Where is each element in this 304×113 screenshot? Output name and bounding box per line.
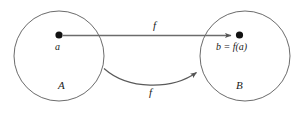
set-b-label: B bbox=[236, 80, 243, 91]
set-b-circle bbox=[200, 11, 290, 101]
set-a-label: A bbox=[58, 80, 65, 91]
point-b-dot bbox=[236, 31, 243, 38]
point-a-dot bbox=[55, 31, 62, 38]
point-b-label: b = f(a) bbox=[216, 42, 247, 52]
function-mapping-diagram: a b = f(a) f f A B bbox=[0, 0, 304, 113]
point-a-label: a bbox=[55, 42, 60, 52]
curved-arrow-label: f bbox=[149, 87, 152, 98]
curved-arrow bbox=[104, 69, 197, 86]
straight-arrow-label: f bbox=[153, 20, 156, 31]
